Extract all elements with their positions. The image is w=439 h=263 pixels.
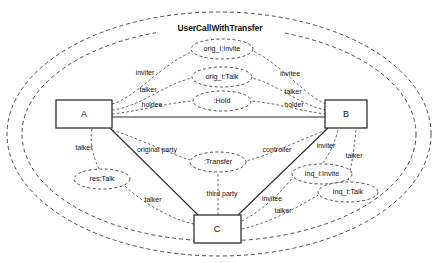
object-res-talk-label: res:Talk xyxy=(90,174,115,183)
object-orig-i-label: orig_i:Invite xyxy=(204,44,241,53)
role-label-third-party: third party xyxy=(206,190,238,198)
link-a-orig-i xyxy=(112,52,191,104)
object-c-label: C xyxy=(214,224,221,234)
role-label-inviter-b: inviter xyxy=(317,142,336,149)
role-label-talker-left: talker xyxy=(139,86,157,93)
object-inq-i[interactable]: inq_i:Invite xyxy=(292,164,352,184)
diagram-canvas: UserCallWithTransfer xyxy=(0,0,439,263)
role-label-talker-res: talker xyxy=(75,144,93,151)
role-label-talker-c-inq: talker xyxy=(274,207,292,214)
role-label-controller: controller xyxy=(263,146,292,153)
object-b-label: B xyxy=(343,109,349,119)
role-label-talker-right: talker xyxy=(284,88,302,95)
object-transfer[interactable]: :Transfer xyxy=(190,152,246,172)
inner-boundary-ellipse xyxy=(22,27,416,241)
link-b-orig-i xyxy=(253,51,326,104)
role-label-talker-b-inq: talker xyxy=(345,152,363,159)
object-a[interactable]: A xyxy=(56,100,112,128)
role-label-invitee-c: invitee xyxy=(262,195,282,202)
role-label-holdee: holdee xyxy=(141,101,162,108)
diagram-title: UserCallWithTransfer xyxy=(177,23,263,33)
link-c-res-talk xyxy=(124,185,194,224)
object-orig-t[interactable]: orig_t:Talk xyxy=(192,67,252,87)
object-inq-t-label: inq_t:Talk xyxy=(333,187,364,196)
object-b[interactable]: B xyxy=(325,100,367,128)
role-label-inviter-left: inviter xyxy=(136,69,155,76)
object-c[interactable]: C xyxy=(194,215,241,243)
object-hold[interactable]: :Hold xyxy=(193,91,251,111)
object-a-label: A xyxy=(81,109,87,119)
object-inq-i-label: inq_i:Invite xyxy=(305,169,339,178)
role-label-holder: holder xyxy=(284,101,304,108)
object-res-talk[interactable]: res:Talk xyxy=(74,169,130,189)
uml-collaboration-diagram: UserCallWithTransfer xyxy=(0,0,439,263)
object-orig-i[interactable]: orig_i:Invite xyxy=(191,39,253,59)
role-label-talker-c-res: talker xyxy=(144,196,162,203)
role-label-invitee-right: invitee xyxy=(280,70,300,77)
role-label-original-party: original party xyxy=(137,146,178,154)
object-hold-label: :Hold xyxy=(214,96,231,105)
object-transfer-label: :Transfer xyxy=(204,157,233,166)
object-inq-t[interactable]: inq_t:Talk xyxy=(318,182,378,202)
object-orig-t-label: orig_t:Talk xyxy=(206,72,239,81)
